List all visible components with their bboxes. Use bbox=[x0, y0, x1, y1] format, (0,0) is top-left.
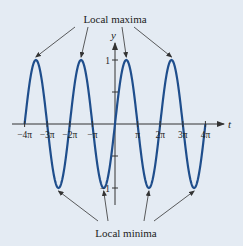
x-tick-label: −4π bbox=[17, 130, 32, 140]
x-tick-label: −π bbox=[87, 130, 97, 140]
minima-arrow bbox=[154, 191, 194, 221]
y-axis-label: y bbox=[110, 29, 116, 41]
minima-arrow bbox=[144, 191, 149, 221]
x-tick-label: π bbox=[135, 130, 140, 140]
minima-arrow bbox=[59, 191, 99, 221]
sine-chart: −4π−3π−2π−ππ2π3π4π1−1 t y Local maxima L… bbox=[0, 0, 243, 246]
x-tick-label: 2π bbox=[155, 130, 165, 140]
x-axis-label: t bbox=[228, 118, 232, 130]
x-tick-label: −3π bbox=[40, 130, 55, 140]
maxima-arrow bbox=[36, 27, 75, 57]
x-tick-label: −2π bbox=[62, 130, 77, 140]
maxima-arrow bbox=[134, 27, 172, 57]
y-tick-label: 1 bbox=[105, 56, 110, 66]
x-tick-label: 3π bbox=[178, 130, 188, 140]
maxima-arrow bbox=[122, 27, 126, 57]
y-tick-label: −1 bbox=[100, 184, 110, 194]
minima-label: Local minima bbox=[95, 227, 157, 239]
maxima-arrow bbox=[81, 27, 88, 57]
minima-arrow bbox=[104, 191, 108, 221]
axes bbox=[12, 43, 224, 205]
maxima-label: Local maxima bbox=[83, 13, 146, 25]
x-tick-label: 4π bbox=[201, 130, 211, 140]
